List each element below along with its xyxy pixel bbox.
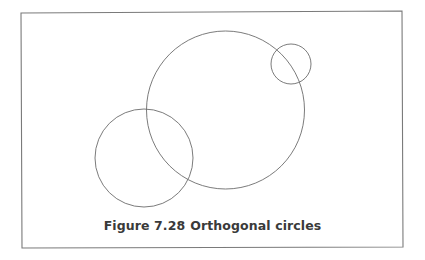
- large-circle: [147, 31, 305, 189]
- lower-left-circle: [95, 109, 193, 207]
- figure-frame: [21, 11, 403, 248]
- figure-caption: Figure 7.28Orthogonal circles: [0, 218, 425, 233]
- small-circle: [271, 44, 311, 84]
- figure-number: Figure 7.28: [104, 218, 186, 233]
- circles-group: [95, 31, 311, 207]
- figure-title: Orthogonal circles: [190, 218, 321, 233]
